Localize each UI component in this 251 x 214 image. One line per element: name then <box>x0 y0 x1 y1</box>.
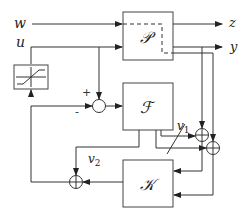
controller-block: 𝒦 <box>123 160 173 207</box>
u-arrow <box>31 47 122 64</box>
sum-junction-right-1 <box>196 129 209 142</box>
plus-sign: + <box>82 86 91 99</box>
v2-signal-label: v2 <box>88 152 101 168</box>
sum-junction-left <box>93 100 106 113</box>
sum-junction-right-2 <box>207 142 220 155</box>
feedback-to-sum-arrow <box>31 106 92 182</box>
sum-junction-bottom-left <box>70 176 83 189</box>
u-signal-label: u <box>16 34 25 50</box>
w-signal-label: w <box>14 15 26 31</box>
z-signal-label: z <box>228 15 236 30</box>
filter-block: ℱ <box>123 83 173 130</box>
plant-block: 𝒫 <box>123 12 173 60</box>
y-signal-label: y <box>229 39 238 54</box>
sum2-to-controller-arrow <box>174 155 213 196</box>
sum1-to-controller-arrow <box>174 142 202 172</box>
block-diagram: 𝒫 w u + - ℱ z y v1 <box>0 0 251 214</box>
minus-sign: - <box>75 105 79 118</box>
saturation-block <box>14 65 48 89</box>
v1-signal-label: v1 <box>177 119 190 135</box>
